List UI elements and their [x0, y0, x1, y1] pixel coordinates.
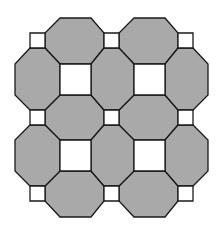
octagon-tall: [91, 125, 134, 186]
small-square: [104, 33, 119, 48]
small-square: [178, 186, 193, 201]
small-square: [104, 186, 119, 201]
octagon-tall: [15, 48, 60, 110]
large-square: [60, 140, 91, 171]
small-square: [30, 110, 45, 125]
small-square: [178, 110, 193, 125]
octagon-tall: [165, 48, 208, 110]
tiling-diagram: [0, 0, 222, 228]
large-square: [134, 140, 165, 171]
octagon-tall: [165, 125, 208, 186]
small-square: [178, 33, 193, 48]
small-square: [30, 186, 45, 201]
large-square: [134, 64, 165, 95]
small-square: [104, 110, 119, 125]
octagon-tall: [91, 48, 134, 110]
octagon-tall: [15, 125, 60, 186]
small-square: [30, 33, 45, 48]
large-square: [60, 64, 91, 95]
